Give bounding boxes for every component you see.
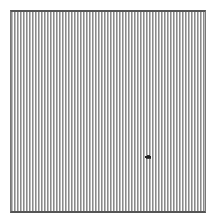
mouse-cursor-icon (145, 155, 153, 160)
striped-canvas[interactable] (10, 10, 206, 213)
